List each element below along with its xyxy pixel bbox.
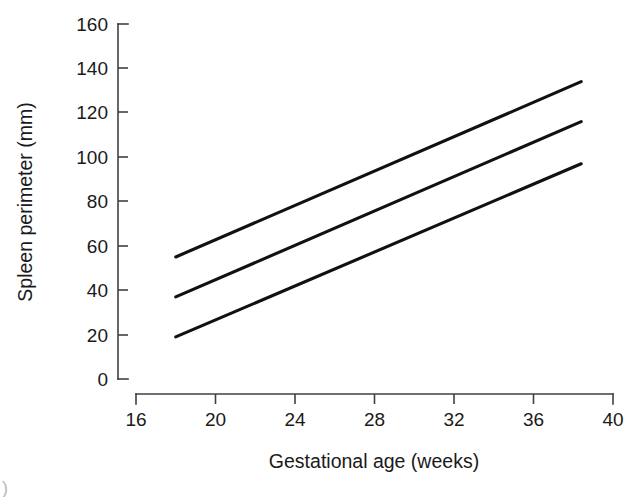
- y-tick-label-40: 40: [87, 280, 108, 301]
- y-tick-label-0: 0: [97, 369, 108, 390]
- series-line-lower: [176, 164, 581, 337]
- x-tick-label-24: 24: [284, 409, 306, 430]
- y-tick-label-160: 160: [76, 14, 108, 35]
- x-tick-label-16: 16: [125, 409, 146, 430]
- x-axis-title: Gestational age (weeks): [269, 450, 479, 472]
- x-tick-label-32: 32: [443, 409, 464, 430]
- y-tick-label-120: 120: [76, 102, 108, 123]
- y-tick-label-60: 60: [87, 236, 108, 257]
- y-tick-label-140: 140: [76, 58, 108, 79]
- y-tick-label-20: 20: [87, 325, 108, 346]
- y-tick-label-80: 80: [87, 191, 108, 212]
- y-tick-label-100: 100: [76, 147, 108, 168]
- y-axis-title: Spleen perimeter (mm): [14, 102, 36, 301]
- series-group: [176, 82, 581, 337]
- x-tick-label-36: 36: [523, 409, 544, 430]
- series-line-upper: [176, 82, 581, 257]
- x-tick-label-40: 40: [602, 409, 623, 430]
- series-line-median: [176, 122, 581, 297]
- x-tick-label-28: 28: [364, 409, 385, 430]
- x-tick-label-20: 20: [205, 409, 226, 430]
- chart-plot-area: 160 140 120 100 80 60 40 20 0 Spleen per…: [0, 0, 643, 497]
- chart-figure: 160 140 120 100 80 60 40 20 0 Spleen per…: [0, 0, 643, 497]
- figure-corner-mark: ): [2, 478, 8, 497]
